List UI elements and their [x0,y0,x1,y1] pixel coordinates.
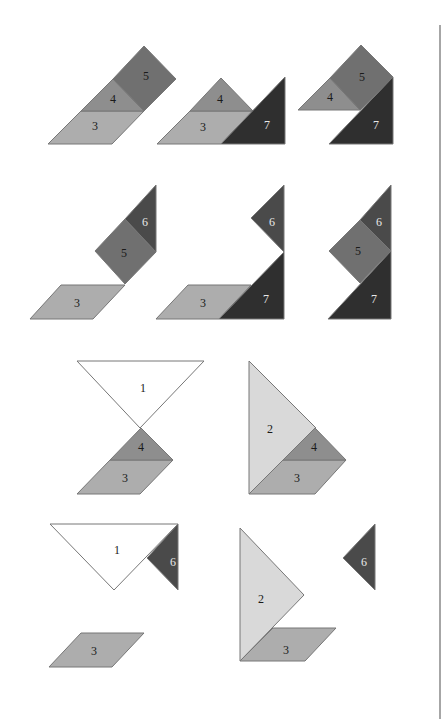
piece-label: 5 [143,69,149,83]
piece-label: 2 [258,592,264,606]
piece-label: 4 [217,92,223,106]
tangram-figure-4: 356 [30,185,156,319]
piece-label: 5 [121,246,127,260]
tangram-figure-8: 234 [249,361,346,494]
piece-label: 6 [269,215,275,229]
piece-label: 3 [200,120,206,134]
piece-label: 5 [355,244,361,258]
piece-label: 3 [91,644,97,658]
piece-label: 4 [110,92,116,106]
tangram-figure-7: 134 [77,361,204,494]
tangram-figure-1: 345 [48,46,176,144]
piece-label: 3 [294,471,300,485]
piece-label: 1 [140,381,146,395]
piece-label: 6 [376,215,382,229]
piece-label: 2 [267,422,273,436]
piece-label: 4 [138,440,144,454]
piece-label: 3 [74,296,80,310]
piece-label: 7 [263,292,269,306]
tangram-diagram: 345347457356376567134234163236 [0,0,446,719]
tangram-figure-9: 163 [49,524,178,667]
piece-label: 3 [283,643,289,657]
tangram-piece-6 [343,524,375,590]
piece-label: 4 [311,440,317,454]
tangram-figure-2: 347 [157,77,285,144]
piece-label: 3 [122,471,128,485]
piece-label: 1 [114,543,120,557]
piece-label: 6 [361,555,367,569]
piece-label: 6 [142,215,148,229]
piece-label: 7 [264,118,270,132]
tangram-figure-10: 236 [240,524,375,661]
tangram-piece-6 [251,185,284,252]
tangram-figure-3: 457 [298,45,393,144]
piece-label: 3 [92,119,98,133]
tangram-figure-6: 567 [328,185,391,319]
piece-label: 5 [359,70,365,84]
piece-label: 3 [200,296,206,310]
piece-label: 4 [327,90,333,104]
tangram-figure-5: 376 [156,185,284,319]
piece-label: 6 [170,555,176,569]
piece-label: 7 [371,292,377,306]
piece-label: 7 [373,118,379,132]
